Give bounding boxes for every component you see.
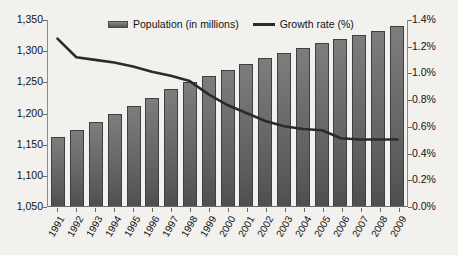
x-axis-label-1994: 1994 xyxy=(102,214,123,239)
right-axis-tick xyxy=(408,154,412,155)
line-series-growth-rate xyxy=(48,20,407,206)
left-axis-tick-label: 1,100 xyxy=(17,170,43,181)
x-axis-label-1992: 1992 xyxy=(64,214,85,239)
x-axis-tick xyxy=(285,208,286,212)
x-axis-tick xyxy=(114,208,115,212)
x-axis-slot: 2008 xyxy=(370,208,389,254)
right-axis-tick xyxy=(408,47,412,48)
x-axis-tick xyxy=(247,208,248,212)
x-axis-slot: 2009 xyxy=(389,208,408,254)
x-axis-tick xyxy=(209,208,210,212)
x-axis-tick xyxy=(190,208,191,212)
left-axis-tick-label: 1,050 xyxy=(17,201,43,212)
x-axis-tick xyxy=(304,208,305,212)
x-axis-slot: 2004 xyxy=(294,208,313,254)
x-axis-label-1991: 1991 xyxy=(45,214,66,239)
population-growth-chart: Population (in millions) Growth rate (%)… xyxy=(0,0,458,255)
x-axis-label-2009: 2009 xyxy=(387,214,408,239)
x-axis-tick xyxy=(266,208,267,212)
right-axis-tick-label: 0.4% xyxy=(412,148,436,159)
x-axis-tick xyxy=(76,208,77,212)
x-axis-label-1993: 1993 xyxy=(83,214,104,239)
left-axis-tick xyxy=(43,82,47,83)
x-axis-label-1995: 1995 xyxy=(121,214,142,239)
x-axis-slot: 1999 xyxy=(199,208,218,254)
x-axis-tick xyxy=(57,208,58,212)
x-axis-slot: 1997 xyxy=(161,208,180,254)
left-value-axis: 1,0501,1001,1501,2001,2501,3001,350 xyxy=(0,0,43,255)
x-axis-label-2000: 2000 xyxy=(216,214,237,239)
x-axis-tick xyxy=(380,208,381,212)
x-axis-slot: 1991 xyxy=(47,208,66,254)
left-axis-tick-label: 1,250 xyxy=(17,76,43,87)
x-axis-label-2007: 2007 xyxy=(349,214,370,239)
x-axis-tick xyxy=(361,208,362,212)
x-axis-slot: 1996 xyxy=(142,208,161,254)
right-axis-tick-label: 0.8% xyxy=(412,94,436,105)
x-axis-label-2006: 2006 xyxy=(330,214,351,239)
x-axis-slot: 1992 xyxy=(66,208,85,254)
right-axis-tick xyxy=(408,20,412,21)
x-axis-slot: 1995 xyxy=(123,208,142,254)
x-axis-label-2004: 2004 xyxy=(292,214,313,239)
category-axis-years: 1991199219931994199519961997199819992000… xyxy=(47,208,408,254)
x-axis-slot: 1994 xyxy=(104,208,123,254)
left-axis-tick-label: 1,350 xyxy=(17,14,43,25)
right-axis-tick xyxy=(408,73,412,74)
left-axis-tick xyxy=(43,114,47,115)
left-axis-tick xyxy=(43,207,47,208)
x-axis-slot: 2006 xyxy=(332,208,351,254)
right-axis-tick-label: 0.6% xyxy=(412,121,436,132)
x-axis-tick xyxy=(342,208,343,212)
left-axis-tick-label: 1,150 xyxy=(17,139,43,150)
x-axis-label-2001: 2001 xyxy=(235,214,256,239)
x-axis-tick xyxy=(152,208,153,212)
x-axis-tick xyxy=(95,208,96,212)
x-axis-tick xyxy=(323,208,324,212)
x-axis-slot: 2002 xyxy=(256,208,275,254)
left-axis-tick xyxy=(43,20,47,21)
x-axis-slot: 2003 xyxy=(275,208,294,254)
x-axis-label-1998: 1998 xyxy=(178,214,199,239)
right-axis-tick-label: 0.0% xyxy=(412,201,436,212)
x-axis-label-2005: 2005 xyxy=(311,214,332,239)
right-axis-tick-label: 1.0% xyxy=(412,67,436,78)
right-percent-axis: 0.0%0.2%0.4%0.6%0.8%1.0%1.2%1.4% xyxy=(412,0,458,255)
right-axis-tick-label: 1.2% xyxy=(412,41,436,52)
left-axis-tick xyxy=(43,145,47,146)
x-axis-tick xyxy=(228,208,229,212)
right-axis-tick-label: 1.4% xyxy=(412,14,436,25)
x-axis-tick xyxy=(171,208,172,212)
right-axis-tick xyxy=(408,100,412,101)
x-axis-label-1996: 1996 xyxy=(140,214,161,239)
x-axis-slot: 2007 xyxy=(351,208,370,254)
left-axis-tick-label: 1,200 xyxy=(17,108,43,119)
x-axis-tick xyxy=(399,208,400,212)
x-axis-slot: 1993 xyxy=(85,208,104,254)
x-axis-slot: 2000 xyxy=(218,208,237,254)
left-axis-tick-label: 1,300 xyxy=(17,45,43,56)
right-axis-tick xyxy=(408,180,412,181)
plot-area xyxy=(47,20,408,207)
right-axis-tick xyxy=(408,207,412,208)
left-axis-tick xyxy=(43,51,47,52)
right-axis-tick-label: 0.2% xyxy=(412,174,436,185)
x-axis-tick xyxy=(133,208,134,212)
x-axis-label-1999: 1999 xyxy=(197,214,218,239)
x-axis-label-2003: 2003 xyxy=(273,214,294,239)
x-axis-label-1997: 1997 xyxy=(159,214,180,239)
x-axis-label-2002: 2002 xyxy=(254,214,275,239)
x-axis-slot: 2005 xyxy=(313,208,332,254)
x-axis-slot: 2001 xyxy=(237,208,256,254)
x-axis-label-2008: 2008 xyxy=(368,214,389,239)
x-axis-slot: 1998 xyxy=(180,208,199,254)
left-axis-tick xyxy=(43,176,47,177)
right-axis-tick xyxy=(408,127,412,128)
